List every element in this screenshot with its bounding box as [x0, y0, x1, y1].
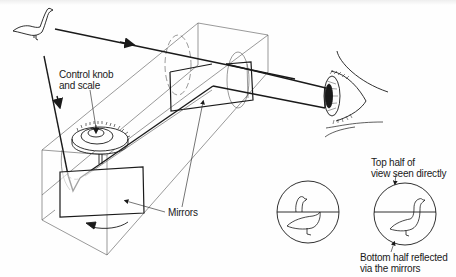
- bird-subject-icon: [13, 8, 53, 40]
- label-control-knob-line2: and scale: [59, 80, 113, 91]
- label-top-half-line2: view seen directly: [371, 168, 446, 179]
- upper-mirror: [165, 35, 253, 111]
- ray-beam-to-eye: [213, 64, 326, 108]
- lower-mirror: [60, 167, 144, 217]
- diagram-illustration: [0, 0, 456, 277]
- label-bottom-half: Bottom half reflected via the mirrors: [360, 252, 448, 274]
- rangefinder-diagram: Control knob and scale Mirrors Top half …: [0, 0, 456, 277]
- label-bottom-half-line2: via the mirrors: [360, 263, 448, 274]
- control-knob-icon: [72, 121, 130, 164]
- label-top-half: Top half of view seen directly: [371, 157, 446, 179]
- viewfinder-misaligned: [277, 181, 339, 243]
- label-bottom-half-line1: Bottom half reflected: [360, 252, 448, 263]
- label-mirrors: Mirrors: [168, 207, 198, 218]
- eye-icon: [324, 51, 388, 137]
- label-top-half-line1: Top half of: [371, 157, 446, 168]
- viewfinder-aligned: [374, 174, 436, 252]
- knob-leader: [90, 90, 96, 128]
- label-control-knob: Control knob and scale: [59, 69, 113, 91]
- label-control-knob-line1: Control knob: [59, 69, 113, 80]
